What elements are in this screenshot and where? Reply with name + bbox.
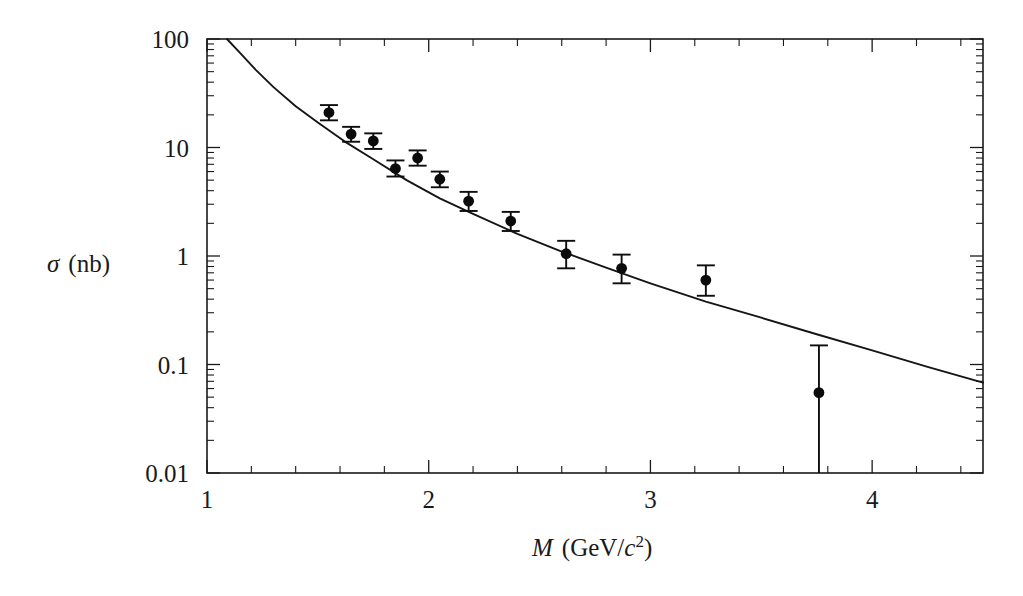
y-tick-label: 0.01 [145,460,189,487]
data-marker [463,196,474,207]
x-axis-unit-italic: c [624,534,635,561]
x-axis-major-ticks [207,39,872,473]
y-axis-major-ticks [207,39,983,473]
x-tick-label: 4 [866,486,879,513]
data-marker [390,163,401,174]
x-tick-label: 1 [201,486,214,513]
data-marker [814,387,825,398]
data-marker [616,263,627,274]
data-marker [561,248,572,259]
y-axis-unit: (nb) [68,250,110,278]
data-point [431,172,449,188]
svg-text:M(GeV/c2): M(GeV/c2) [531,532,652,562]
data-point [320,105,338,120]
x-axis-symbol: M [531,534,554,561]
data-point [342,127,360,142]
sigma-vs-mass-plot: 0.010.1110100 1234 σ(nb) M(GeV/c2) [0,0,1023,596]
x-axis-title: M(GeV/c2) [531,532,652,562]
model-prediction-curve [227,39,983,383]
y-tick-label: 0.1 [158,352,189,379]
data-point [409,150,427,165]
svg-text:σ(nb): σ(nb) [47,250,110,278]
x-axis-unit-open: (GeV/ [562,534,625,562]
y-axis-tick-labels: 0.010.1110100 [145,26,189,487]
plot-frame [207,39,983,473]
y-tick-label: 100 [152,26,190,53]
y-tick-label: 10 [164,135,189,162]
data-marker [700,275,711,286]
x-axis-tick-labels: 1234 [201,486,879,513]
x-tick-label: 3 [644,486,657,513]
x-tick-label: 2 [422,486,435,513]
y-axis-minor-ticks [207,44,983,440]
data-marker [412,153,423,164]
data-marker [434,174,445,185]
data-point [364,133,382,149]
data-point [613,255,631,284]
data-point-series [320,105,828,473]
data-point [697,265,715,295]
data-marker [505,216,516,227]
data-point [810,345,828,473]
data-marker [368,136,379,147]
x-axis-minor-ticks [251,39,960,473]
x-axis-unit-exponent: 2 [635,532,644,551]
data-marker [346,129,357,140]
y-tick-label: 1 [177,243,190,270]
data-marker [324,107,335,118]
figure-container: 0.010.1110100 1234 σ(nb) M(GeV/c2) [0,0,1023,596]
x-axis-unit-close: ) [644,534,652,562]
y-axis-symbol: σ [47,250,61,277]
y-axis-title: σ(nb) [47,250,110,278]
